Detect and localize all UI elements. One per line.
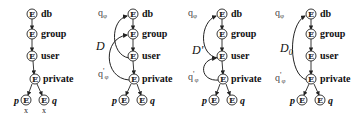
arc-user-to-db: [114, 16, 129, 58]
svg-text:E: E: [131, 74, 137, 84]
edge-private-q: [314, 84, 319, 95]
arc-private-to-db: [292, 16, 307, 80]
label-p: p: [13, 95, 19, 106]
node-db: E: [128, 9, 138, 19]
arc-label-D: D: [95, 39, 105, 53]
label-user: user: [41, 50, 60, 61]
label-db: db: [320, 8, 332, 19]
svg-text:E: E: [121, 95, 127, 105]
label-user: user: [142, 50, 161, 61]
svg-text:E: E: [219, 29, 225, 39]
node-user: E: [306, 51, 316, 61]
label-p: p: [201, 95, 207, 106]
node-leaf-q: E: [315, 95, 325, 105]
svg-text:E: E: [29, 9, 35, 19]
panel-3: qφ D' q'φ E db E group E user E private …: [188, 7, 262, 106]
svg-text:E: E: [308, 29, 314, 39]
edge-private-q: [226, 84, 230, 95]
edge-private-p: [304, 84, 309, 95]
edge-private-q: [37, 84, 42, 95]
edge-private-p: [126, 84, 131, 95]
edge-user-private: [33, 61, 34, 74]
mark-q-x: x: [42, 106, 46, 115]
svg-text:E: E: [229, 95, 235, 105]
svg-text:E: E: [29, 29, 35, 39]
node-leaf-p: E: [119, 95, 129, 105]
node-private: E: [306, 74, 316, 84]
node-group: E: [217, 29, 227, 39]
svg-text:E: E: [219, 9, 225, 19]
label-user: user: [231, 50, 250, 61]
panel-1: E db E group E user E private E p x E q …: [13, 8, 74, 115]
edge-private-p: [28, 84, 32, 95]
node-private: E: [218, 74, 228, 84]
svg-text:E: E: [130, 9, 136, 19]
svg-text:E: E: [220, 74, 226, 84]
arc-private-to-user: [204, 58, 219, 80]
edge-user-private: [133, 61, 134, 74]
svg-text:E: E: [308, 9, 314, 19]
label-db: db: [142, 8, 154, 19]
tree-diagram: E db E group E user E private E p x E q …: [0, 0, 359, 115]
q-phi-label: qφ: [275, 7, 284, 20]
label-group: group: [320, 28, 346, 39]
node-user: E: [217, 51, 227, 61]
node-db: E: [27, 9, 37, 19]
node-user: E: [128, 51, 138, 61]
q-prime-phi-label: q'φ: [275, 71, 286, 85]
node-leaf-q: E: [137, 95, 147, 105]
q-phi-label: qφ: [98, 7, 107, 20]
label-group: group: [231, 28, 257, 39]
node-private: E: [30, 74, 40, 84]
label-group: group: [142, 28, 168, 39]
arc-label-D0: D0: [279, 41, 293, 57]
label-q: q: [52, 95, 57, 106]
node-group: E: [306, 29, 316, 39]
label-private: private: [231, 73, 262, 84]
node-group: E: [128, 29, 138, 39]
arc-label-D-prime: D': [191, 43, 204, 57]
svg-text:E: E: [139, 95, 145, 105]
node-leaf-q: E: [39, 95, 49, 105]
node-db: E: [217, 9, 227, 19]
node-leaf-p: E: [297, 95, 307, 105]
q-prime-phi-label: q'φ: [188, 70, 199, 84]
svg-text:E: E: [317, 95, 323, 105]
label-db: db: [41, 8, 53, 19]
label-q: q: [150, 95, 155, 106]
arc-user-to-db: [204, 16, 219, 58]
q-prime-phi-label: q'φ: [98, 67, 109, 81]
svg-text:E: E: [29, 51, 35, 61]
svg-text:E: E: [130, 29, 136, 39]
mark-p-x: x: [24, 106, 28, 115]
svg-text:E: E: [308, 51, 314, 61]
edge-private-q: [137, 84, 141, 95]
label-p: p: [111, 95, 117, 106]
label-db: db: [231, 8, 243, 19]
panel-4: qφ D0 q'φ E db E group E user E private …: [275, 7, 351, 106]
edge-private-p: [216, 84, 220, 95]
node-leaf-q: E: [227, 95, 237, 105]
svg-text:E: E: [211, 95, 217, 105]
svg-text:E: E: [299, 95, 305, 105]
label-q: q: [240, 95, 245, 106]
label-q: q: [328, 95, 333, 106]
q-phi-label: qφ: [188, 7, 197, 20]
node-group: E: [27, 29, 37, 39]
label-user: user: [320, 50, 339, 61]
label-private: private: [142, 73, 173, 84]
svg-text:E: E: [32, 74, 38, 84]
panel-2: qφ D q'φ E db E group E user E private E…: [95, 7, 173, 106]
label-private: private: [43, 73, 74, 84]
label-group: group: [41, 28, 67, 39]
svg-text:E: E: [308, 74, 314, 84]
node-leaf-p: E: [21, 95, 31, 105]
svg-text:E: E: [41, 95, 47, 105]
node-user: E: [27, 51, 37, 61]
svg-text:E: E: [130, 51, 136, 61]
edge-user-private: [222, 61, 223, 74]
node-leaf-p: E: [209, 95, 219, 105]
svg-text:E: E: [219, 51, 225, 61]
node-private: E: [129, 74, 139, 84]
label-private: private: [320, 73, 351, 84]
